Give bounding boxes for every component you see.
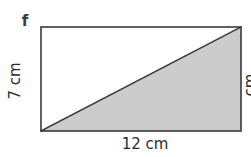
- height-dimension-label: 7 cm: [5, 53, 25, 109]
- geometry-figure: f 7 cm cm 12 cm: [0, 0, 251, 157]
- width-dimension-label: 12 cm: [100, 134, 190, 154]
- right-side-dimension-label: cm: [240, 57, 251, 113]
